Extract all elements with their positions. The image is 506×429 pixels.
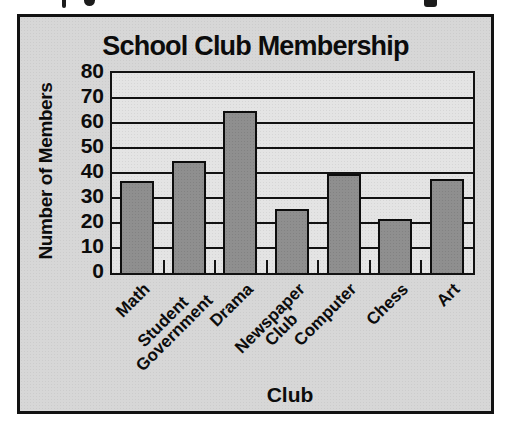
gridline-60	[112, 122, 473, 124]
x-axis-tick	[163, 260, 165, 273]
gridline-70	[112, 97, 473, 99]
y-tick-label-80: 80	[20, 60, 104, 82]
page: School Club Membership Number of Members…	[0, 0, 506, 429]
bar-newspaper-club	[275, 209, 309, 274]
y-tick-label-70: 70	[20, 85, 104, 107]
bar-art	[430, 179, 464, 274]
x-tick-label-art: Art	[434, 281, 463, 310]
gridline-30	[112, 197, 473, 199]
bar-student-government	[172, 161, 206, 273]
y-tick-label-50: 50	[20, 135, 104, 157]
y-tick-label-10: 10	[20, 235, 104, 257]
bar-drama	[223, 111, 257, 273]
x-axis-tick	[214, 260, 216, 273]
y-tick-label-20: 20	[20, 210, 104, 232]
chart-title: School Club Membership	[102, 31, 408, 62]
x-axis-tick	[369, 260, 371, 273]
y-tick-label-30: 30	[20, 185, 104, 207]
y-tick-label-40: 40	[20, 160, 104, 182]
figure-box: School Club Membership Number of Members…	[17, 14, 494, 414]
y-tick-label-0: 0	[20, 260, 104, 282]
bar-math	[120, 181, 154, 273]
x-axis-tick	[317, 260, 319, 273]
gridline-40	[112, 172, 473, 174]
bar-chess	[378, 219, 412, 274]
cropped-text-fragment	[424, 0, 437, 7]
x-axis-title: Club	[267, 383, 314, 407]
bar-computer	[327, 174, 361, 274]
cropped-text-fragment	[84, 0, 95, 6]
x-axis-tick	[266, 260, 268, 273]
y-tick-label-60: 60	[20, 110, 104, 132]
x-tick-label-chess: Chess	[364, 281, 411, 328]
gridline-50	[112, 147, 473, 149]
x-axis-tick	[420, 260, 422, 273]
plot-area	[110, 71, 475, 275]
cropped-text-fragment	[62, 0, 66, 8]
x-tick-label-math: Math	[114, 281, 153, 320]
